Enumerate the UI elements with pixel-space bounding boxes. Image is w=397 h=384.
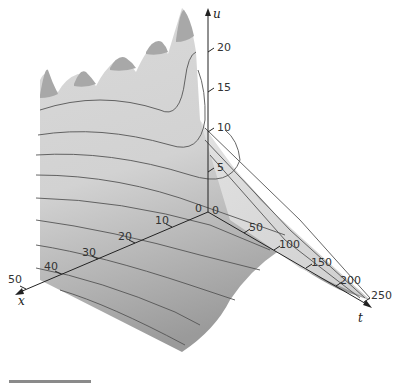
origin-u-label: 0 <box>195 202 202 215</box>
x-tick-10: 10 <box>155 214 169 227</box>
u-tick-5: 5 <box>217 161 224 174</box>
x-axis-label: x <box>18 294 25 308</box>
t-tick-50: 50 <box>249 221 263 234</box>
bottom-rule <box>9 380 91 383</box>
u-arrow-icon <box>205 8 211 16</box>
t-axis-label: t <box>358 311 363 325</box>
t-tick-150: 150 <box>311 256 332 269</box>
x-tick-30: 30 <box>82 246 96 259</box>
t-tick-200: 200 <box>340 274 361 287</box>
u-tick-20: 20 <box>217 41 231 54</box>
x-tick-50: 50 <box>8 273 22 286</box>
surface-plot: u t x 20 15 10 5 0 0 50 100 150 200 250 … <box>0 0 397 384</box>
u-tick-15: 15 <box>217 81 231 94</box>
u-tick-10: 10 <box>217 121 231 134</box>
origin-t-label: 0 <box>212 204 219 217</box>
x-tick-20: 20 <box>118 230 132 243</box>
x-tick-40: 40 <box>44 260 58 273</box>
t-tick-250: 250 <box>371 289 392 302</box>
t-tick-100: 100 <box>279 238 300 251</box>
u-axis-label: u <box>213 7 221 21</box>
